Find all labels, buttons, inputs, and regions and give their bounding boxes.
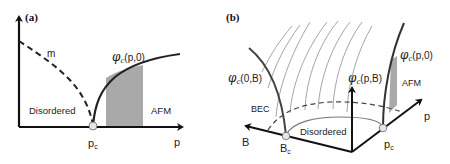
bec-label: BEC [251,104,270,114]
panel-b-label: (b) [226,11,240,24]
phi-c-p0-label: φc(p,0) [112,50,145,65]
phi-c-0B-label: φc(0,B) [228,71,262,86]
disordered-label: Disordered [29,105,75,116]
phi-c-p0-label-b: φc(p,0) [400,48,433,63]
x-axis-p-label: p [174,136,180,148]
panel-b: (b) φc(0,B) φc(p,B) φc(p,0) BEC Disorder… [226,11,433,155]
disordered-label-b: Disordered [300,126,346,137]
afm-shaded-region [106,65,143,127]
critical-point-pc [89,122,97,130]
critical-point-bc [282,132,290,140]
phi-c-pB-label: φc(p,B) [348,71,382,86]
phase-diagram: (a) m φc(p,0) Disordered AFM pc p [0,0,450,164]
pc-label-b: pc [384,138,394,151]
m-label: m [47,48,55,59]
panel-a-label: (a) [25,11,38,24]
b-axis-label: B [242,136,249,148]
critical-point-pc-b [379,124,387,132]
afm-label-b: AFM [402,78,421,88]
afm-label: AFM [151,105,171,116]
p-axis-label: p [424,110,430,122]
panel-a: (a) m φc(p,0) Disordered AFM pc p [19,11,182,150]
pc-label: pc [88,137,98,150]
bc-label: Bc [280,142,291,155]
